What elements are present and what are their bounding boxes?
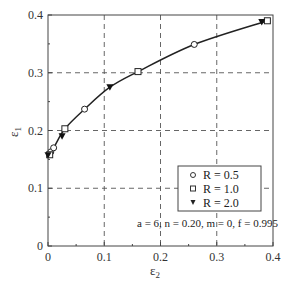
y-tick-label: 0.1 bbox=[28, 181, 43, 195]
circle-marker bbox=[191, 41, 197, 47]
chart: 00.10.20.30.400.10.20.30.4 R = 0.5 R = 1… bbox=[0, 0, 287, 290]
x-tick-label: 0.1 bbox=[97, 250, 112, 264]
legend-label-r05: R = 0.5 bbox=[203, 168, 239, 182]
square-marker bbox=[264, 18, 270, 24]
y-tick-label: 0.2 bbox=[28, 124, 43, 138]
y-tick-label: 0 bbox=[37, 239, 43, 253]
x-tick-label: 0.4 bbox=[266, 250, 281, 264]
parameter-annotation: a = 6, n = 0.20, m = 0, f = 0.995 bbox=[137, 217, 278, 229]
legend-label-r20: R = 2.0 bbox=[203, 196, 239, 210]
y-axis-label: ε1 bbox=[6, 127, 23, 137]
fit-curve bbox=[48, 21, 267, 156]
data-markers bbox=[45, 18, 271, 159]
y-tick-label: 0.3 bbox=[28, 66, 43, 80]
circle-marker-icon bbox=[191, 173, 196, 178]
legend: R = 0.5 R = 1.0 R = 2.0 bbox=[178, 166, 261, 211]
square-marker bbox=[135, 69, 141, 75]
x-tick-label: 0.3 bbox=[209, 250, 224, 264]
y-tick-label: 0.4 bbox=[28, 8, 43, 22]
square-marker-icon bbox=[191, 186, 196, 191]
x-tick-label: 0.2 bbox=[153, 250, 168, 264]
circle-marker bbox=[82, 106, 88, 112]
circle-marker bbox=[51, 145, 57, 151]
square-marker bbox=[62, 126, 68, 132]
x-axis-label: ε2 bbox=[150, 263, 160, 280]
x-tick-label: 0 bbox=[45, 250, 51, 264]
legend-label-r10: R = 1.0 bbox=[203, 182, 239, 196]
